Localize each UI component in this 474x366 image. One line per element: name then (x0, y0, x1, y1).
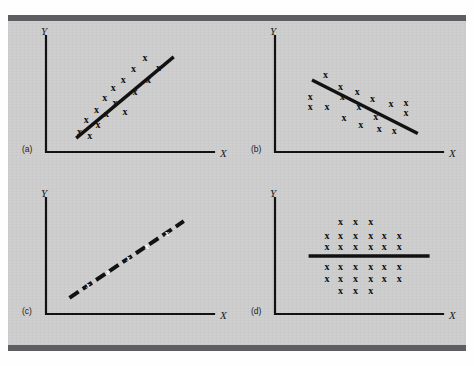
data-point-mark: x (392, 125, 397, 136)
data-point-mark: x (325, 273, 330, 284)
data-point-mark: x (382, 230, 387, 241)
panel-c-y-axis-label: Y (41, 187, 49, 199)
data-point-mark: x (368, 241, 373, 252)
panel-d-svg: Y X (d) xxxxxxxxxxxxxxxxxxxxxxxxxxxxxx (237, 183, 466, 345)
data-point-mark: x (368, 216, 373, 227)
data-point-mark: x (121, 74, 126, 85)
panel-c-perfect-correlation: Y X (c) xxxxx (8, 183, 237, 345)
data-point-mark: x (325, 230, 330, 241)
data-point-mark: x (341, 112, 346, 123)
data-point-mark: x (325, 261, 330, 272)
panel-d-no-correlation: Y X (d) xxxxxxxxxxxxxxxxxxxxxxxxxxxxxx (237, 183, 466, 345)
data-point-mark: x (126, 253, 131, 263)
panel-c-tag: (c) (22, 306, 32, 316)
data-point-mark: x (123, 106, 128, 117)
data-point-mark: x (368, 285, 373, 296)
data-point-mark: x (397, 273, 402, 284)
panel-b-tag: (b) (251, 144, 262, 154)
data-point-mark: x (368, 230, 373, 241)
figure-plate: Y X (a) xxxxxxxxxxxxxxxx Y X (b) xxxxxxx… (8, 21, 466, 345)
data-point-mark: x (404, 107, 409, 118)
data-point-mark: x (368, 261, 373, 272)
panel-b-x-axis-label: X (448, 147, 457, 159)
panel-c-svg: Y X (c) xxxxx (8, 183, 237, 345)
data-point-mark: x (355, 86, 360, 97)
panel-d-x-axis-label: X (448, 309, 457, 321)
data-point-mark: x (84, 114, 89, 125)
data-point-mark: x (323, 69, 328, 80)
data-point-mark: x (338, 216, 343, 227)
data-point-mark: x (382, 241, 387, 252)
data-point-mark: x (382, 273, 387, 284)
data-point-mark: x (377, 123, 382, 134)
data-point-mark: x (368, 273, 373, 284)
data-point-mark: x (338, 273, 343, 284)
data-point-mark: x (353, 216, 358, 227)
data-point-mark: x (382, 261, 387, 272)
data-point-mark: x (308, 91, 313, 102)
data-point-mark: x (370, 93, 375, 104)
data-point-mark: x (353, 261, 358, 272)
data-point-mark: x (397, 261, 402, 272)
data-point-mark: x (353, 273, 358, 284)
data-point-mark: x (111, 82, 116, 93)
panel-a-positive-correlation: Y X (a) xxxxxxxxxxxxxxxx (8, 21, 237, 183)
data-point-mark: x (353, 241, 358, 252)
data-point-mark: x (338, 241, 343, 252)
bottom-rule-divider (8, 345, 466, 351)
panel-a-trend-line (76, 57, 174, 138)
data-point-mark: x (338, 81, 343, 92)
panel-b-y-axis-label: Y (270, 25, 278, 37)
data-point-mark: x (102, 92, 107, 103)
panel-a-tag: (a) (22, 144, 33, 154)
data-point-mark: x (143, 52, 148, 63)
data-point-mark: x (94, 104, 99, 115)
data-point-mark: x (397, 230, 402, 241)
data-point-mark: x (106, 267, 111, 277)
data-point-mark: x (131, 63, 136, 74)
data-point-mark: x (397, 241, 402, 252)
data-point-mark: x (338, 285, 343, 296)
figure-root: Y X (a) xxxxxxxxxxxxxxxx Y X (b) xxxxxxx… (0, 0, 474, 366)
data-point-mark: x (338, 230, 343, 241)
data-point-mark: x (358, 119, 363, 130)
data-point-mark: x (353, 230, 358, 241)
panel-b-svg: Y X (b) xxxxxxxxxxxxxxxxx (237, 21, 466, 183)
data-point-mark: x (308, 101, 313, 112)
data-point-mark: x (404, 97, 409, 108)
data-point-mark: x (145, 241, 150, 251)
data-point-mark: x (338, 261, 343, 272)
panel-b-negative-correlation: Y X (b) xxxxxxxxxxxxxxxxx (237, 21, 466, 183)
panel-d-tag: (d) (251, 306, 262, 316)
panel-c-x-axis-label: X (219, 309, 228, 321)
panel-a-x-axis-label: X (219, 147, 228, 159)
panel-d-y-axis-label: Y (270, 187, 278, 199)
data-point-mark: x (325, 241, 330, 252)
data-point-mark: x (325, 101, 330, 112)
data-point-mark: x (353, 285, 358, 296)
panel-a-y-axis-label: Y (41, 25, 49, 37)
data-point-mark: x (388, 98, 393, 109)
data-point-mark: x (87, 130, 92, 141)
panel-a-svg: Y X (a) xxxxxxxxxxxxxxxx (8, 21, 237, 183)
